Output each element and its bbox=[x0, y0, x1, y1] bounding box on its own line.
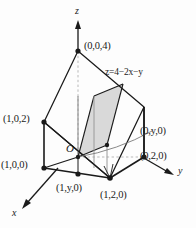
plane-equation-label: z=4−2x−y bbox=[105, 68, 143, 78]
x-axis-label: x bbox=[12, 208, 16, 218]
z-axis-arrowhead bbox=[75, 20, 81, 29]
origin-label: O bbox=[66, 143, 74, 154]
point-label-y-intercept: (0,2,0) bbox=[140, 151, 167, 162]
point-dot-slab-bottom bbox=[105, 143, 109, 147]
point-label-left-base: (1,0,0) bbox=[1, 160, 28, 171]
x-axis-line bbox=[27, 168, 58, 203]
point-label-y-axis-point: (0,y,0) bbox=[140, 126, 166, 137]
point-label-front-right-base: (1,2,0) bbox=[100, 190, 127, 201]
point-label-left-top: (1,0,2) bbox=[3, 114, 30, 125]
z-axis-label: z bbox=[75, 6, 79, 16]
base-edge-left-to-origin bbox=[44, 157, 78, 168]
y-axis-arrowhead bbox=[164, 168, 174, 175]
point-dot-apex bbox=[75, 48, 80, 53]
point-label-front-base: (1,y,0) bbox=[56, 183, 82, 194]
figure-container: z (0,0,4) z=4−2x−y (1,0,2) O (1,0,0) (1,… bbox=[0, 0, 196, 228]
point-label-apex: (0,0,4) bbox=[84, 41, 111, 52]
point-dot-left-top bbox=[41, 119, 46, 124]
y-axis-label: y bbox=[178, 166, 182, 176]
shaded-cross-section bbox=[78, 84, 123, 157]
point-dot-left-base bbox=[41, 165, 46, 170]
